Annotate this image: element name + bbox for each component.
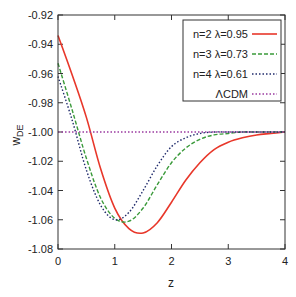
legend-label: n=4 λ=0.61 xyxy=(193,68,248,80)
legend-label: ΛCDM xyxy=(216,88,248,100)
y-tick-label: -0.96 xyxy=(28,68,53,80)
x-tick-label: 4 xyxy=(282,255,288,267)
legend: n=2 λ=0.95n=3 λ=0.73n=4 λ=0.61ΛCDM xyxy=(183,20,281,101)
svg-text:wDE: wDE xyxy=(9,124,25,146)
y-tick-label: -1.08 xyxy=(28,243,53,255)
x-tick-label: 2 xyxy=(168,255,174,267)
y-tick-label: -1.02 xyxy=(28,155,53,167)
y-axis-label: wDE xyxy=(9,124,25,146)
y-tick-label: -0.94 xyxy=(28,38,53,50)
x-axis-label: z xyxy=(168,276,174,290)
legend-label: n=2 λ=0.95 xyxy=(193,28,248,40)
y-tick-label: -1.04 xyxy=(28,185,53,197)
x-tick-label: 1 xyxy=(112,255,118,267)
y-tick-label: -0.98 xyxy=(28,97,53,109)
chart: -0.92-0.94-0.96-0.98-1.00-1.02-1.04-1.06… xyxy=(0,0,296,297)
y-tick-label: -0.92 xyxy=(28,9,53,21)
x-tick-label: 0 xyxy=(55,255,61,267)
y-tick-label: -1.06 xyxy=(28,214,53,226)
x-tick-label: 3 xyxy=(225,255,231,267)
legend-label: n=3 λ=0.73 xyxy=(193,48,248,60)
y-tick-label: -1.00 xyxy=(28,126,53,138)
